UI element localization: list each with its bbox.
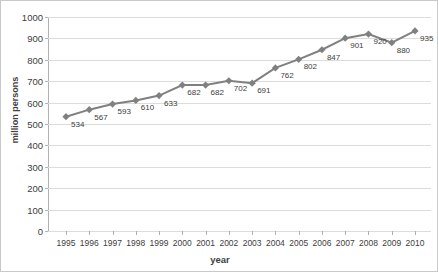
- x-axis-tick-label: 1997: [103, 238, 122, 248]
- x-axis-tick-label: 2005: [289, 238, 308, 248]
- x-axis-tick-mark: [89, 231, 90, 235]
- y-axis-tick-label: 900: [27, 33, 43, 44]
- y-axis-tick-label: 300: [27, 161, 43, 172]
- data-point-marker: [225, 77, 232, 84]
- data-point-label: 935: [420, 33, 433, 42]
- x-axis-tick-label: 2001: [196, 238, 215, 248]
- data-point-marker: [318, 46, 325, 53]
- data-point-label: 633: [164, 98, 177, 107]
- plot-area: 01002003004005006007008009001000 1995199…: [48, 17, 431, 231]
- x-axis-tick-mark: [252, 231, 253, 235]
- x-axis-tick-label: 2004: [266, 238, 285, 248]
- y-axis-tick-mark: [45, 231, 48, 232]
- data-point-marker: [365, 31, 372, 38]
- y-axis-tick-label: 500: [27, 119, 43, 130]
- data-point-marker: [202, 81, 209, 88]
- gridline: [48, 231, 431, 232]
- x-axis-tick-mark: [322, 231, 323, 235]
- y-axis-title: million persons: [10, 50, 20, 170]
- data-point-marker: [342, 35, 349, 42]
- x-axis-tick-mark: [182, 231, 183, 235]
- x-axis-tick-label: 1995: [57, 238, 76, 248]
- chart-container: million persons 010020030040050060070080…: [0, 0, 438, 272]
- x-axis-tick-mark: [299, 231, 300, 235]
- x-axis-tick-label: 1999: [150, 238, 169, 248]
- x-axis-tick-label: 2009: [382, 238, 401, 248]
- data-point-label: 901: [350, 41, 363, 50]
- x-axis-title: year: [1, 254, 438, 265]
- data-point-label: 682: [187, 88, 200, 97]
- y-axis-tick-label: 100: [27, 204, 43, 215]
- x-axis-tick-mark: [392, 231, 393, 235]
- data-point-label: 691: [257, 86, 270, 95]
- data-point-marker: [411, 27, 418, 34]
- chart-title: [1, 0, 438, 5]
- data-point-label: 880: [397, 45, 410, 54]
- y-axis-tick-label: 400: [27, 140, 43, 151]
- x-axis-tick-label: 2002: [219, 238, 238, 248]
- data-point-label: 847: [327, 52, 340, 61]
- data-point-marker: [388, 39, 395, 46]
- x-axis-tick-mark: [229, 231, 230, 235]
- data-point-marker: [62, 113, 69, 120]
- x-axis-tick-label: 2000: [173, 238, 192, 248]
- data-point-marker: [295, 56, 302, 63]
- data-point-marker: [109, 100, 116, 107]
- x-axis-tick-mark: [136, 231, 137, 235]
- y-axis-tick-label: 1000: [22, 12, 43, 23]
- data-point-label: 762: [280, 70, 293, 79]
- x-axis-tick-mark: [206, 231, 207, 235]
- x-axis-tick-label: 2007: [336, 238, 355, 248]
- x-axis-tick-mark: [275, 231, 276, 235]
- x-axis-tick-label: 1998: [126, 238, 145, 248]
- y-axis-tick-label: 200: [27, 183, 43, 194]
- data-point-label: 920: [373, 37, 386, 46]
- x-axis-tick-label: 2008: [359, 238, 378, 248]
- data-point-label: 682: [211, 88, 224, 97]
- y-axis-tick-label: 0: [38, 226, 43, 237]
- data-point-label: 593: [118, 107, 131, 116]
- x-axis-tick-mark: [66, 231, 67, 235]
- data-point-marker: [155, 92, 162, 99]
- x-axis-tick-label: 1996: [80, 238, 99, 248]
- x-axis-tick-label: 2010: [406, 238, 425, 248]
- y-axis-tick-label: 600: [27, 97, 43, 108]
- data-point-label: 702: [234, 83, 247, 92]
- x-axis-tick-label: 2003: [243, 238, 262, 248]
- x-axis-tick-mark: [415, 231, 416, 235]
- data-point-marker: [86, 106, 93, 113]
- data-point-marker: [179, 81, 186, 88]
- y-axis-tick-label: 800: [27, 54, 43, 65]
- x-axis-tick-mark: [368, 231, 369, 235]
- data-point-marker: [132, 97, 139, 104]
- x-axis-tick-label: 2006: [312, 238, 331, 248]
- data-point-label: 802: [304, 62, 317, 71]
- data-point-label: 610: [141, 103, 154, 112]
- x-axis-tick-mark: [345, 231, 346, 235]
- x-axis-tick-mark: [113, 231, 114, 235]
- data-point-label: 534: [71, 119, 84, 128]
- data-series-line: [48, 17, 431, 231]
- x-axis-tick-mark: [159, 231, 160, 235]
- y-axis-tick-label: 700: [27, 76, 43, 87]
- data-point-label: 567: [94, 112, 107, 121]
